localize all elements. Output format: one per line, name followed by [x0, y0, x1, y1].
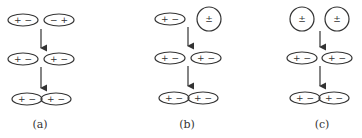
- panel-label-a: (a): [32, 118, 47, 131]
- svg-text:+ −: + −: [47, 94, 65, 104]
- svg-text:±: ±: [298, 14, 306, 24]
- svg-text:+ −: + −: [296, 93, 314, 103]
- panel-label-c: (c): [315, 118, 330, 131]
- svg-text:+ −: + −: [14, 15, 32, 25]
- svg-text:+ −: + −: [165, 93, 183, 103]
- panel-c: ± ± + − + − + − + −: [287, 7, 352, 104]
- svg-text:+ −: + −: [14, 54, 32, 64]
- svg-text:±: ±: [333, 14, 341, 24]
- svg-text:+ −: + −: [197, 53, 215, 63]
- panel-label-b: (b): [179, 118, 195, 131]
- svg-text:+ −: + −: [161, 53, 179, 63]
- panel-b: + − ± + − + − + − + −: [155, 7, 221, 104]
- svg-text:+ −: + −: [194, 93, 212, 103]
- svg-text:− +: − +: [50, 15, 68, 25]
- svg-text:+ −: + −: [161, 14, 179, 24]
- svg-text:+ −: + −: [328, 53, 346, 63]
- svg-text:+ −: + −: [293, 53, 311, 63]
- svg-text:±: ±: [205, 14, 213, 24]
- svg-text:+ −: + −: [50, 54, 68, 64]
- svg-text:+ −: + −: [325, 93, 343, 103]
- svg-text:+ −: + −: [18, 94, 36, 104]
- panel-a: + − − + + − + − + − + −: [8, 14, 74, 105]
